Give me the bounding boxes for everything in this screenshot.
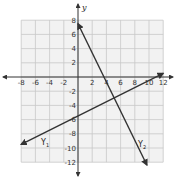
x-tick-label: -4 xyxy=(46,79,54,87)
x-tick-label: 12 xyxy=(159,79,168,87)
y-tick-label: 8 xyxy=(72,17,76,25)
y-tick-label: 6 xyxy=(72,31,77,39)
y-tick-label: -10 xyxy=(65,145,76,153)
x-tick-label: 2 xyxy=(90,79,94,87)
y-tick-label: -8 xyxy=(69,130,76,138)
coordinate-plane: y -8-6-4-2246810128642-2-4-6-8-10-12 Y1Y… xyxy=(0,0,175,180)
y-tick-label: 4 xyxy=(72,45,77,53)
x-tick-label: -6 xyxy=(32,79,40,87)
y-axis-label: y xyxy=(81,3,87,12)
y-tick-label: -2 xyxy=(69,88,76,96)
y-tick-label: -12 xyxy=(65,159,76,167)
x-tick-label: -2 xyxy=(60,79,67,87)
x-tick-label: 6 xyxy=(118,79,123,87)
y-tick-label: -4 xyxy=(69,102,77,110)
y-tick-label: 2 xyxy=(72,59,76,67)
x-tick-label: 8 xyxy=(133,79,137,87)
x-tick-label: -8 xyxy=(18,79,25,87)
